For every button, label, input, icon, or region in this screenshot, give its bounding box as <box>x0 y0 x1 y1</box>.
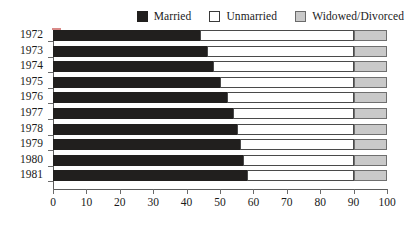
bar-segment-unmarried <box>233 108 353 119</box>
x-axis-tick-label: 0 <box>50 196 56 208</box>
bar-segment-married <box>53 46 207 57</box>
y-axis-tick-label: 1975 <box>20 76 43 87</box>
y-axis-tick-label: 1972 <box>20 29 43 40</box>
bar-row <box>53 30 387 41</box>
x-axis-tick <box>387 189 388 194</box>
bar-segment-married <box>53 170 247 181</box>
bar-segment-unmarried <box>213 61 353 72</box>
bar-segment-unmarried <box>207 46 354 57</box>
x-axis-tick-label: 60 <box>248 196 260 208</box>
widowed-divorced-swatch-icon <box>295 11 306 22</box>
x-axis-tick <box>86 189 87 194</box>
bar-segment-widowed-divorced <box>354 77 387 88</box>
legend-item-unmarried: Unmarried <box>209 10 277 22</box>
bar-row <box>53 124 387 135</box>
legend-item-widowed-divorced: Widowed/Divorced <box>295 10 404 22</box>
legend-label-unmarried: Unmarried <box>226 10 277 22</box>
x-axis-tick-label: 20 <box>114 196 126 208</box>
x-axis-tick-label: 90 <box>348 196 360 208</box>
x-axis-tick-label: 50 <box>214 196 226 208</box>
bar-segment-unmarried <box>237 124 354 135</box>
bar-segment-married <box>53 92 227 103</box>
bar-segment-unmarried <box>220 77 354 88</box>
legend-label-widowed-divorced: Widowed/Divorced <box>312 10 404 22</box>
bar-segment-widowed-divorced <box>354 108 387 119</box>
bar-segment-unmarried <box>200 30 354 41</box>
y-axis-labels: 1972197319741975197619771978197919801981 <box>0 29 49 187</box>
x-axis-tick <box>120 189 121 194</box>
y-axis-tick-label: 1974 <box>20 60 43 71</box>
x-axis-tick-label: 70 <box>281 196 293 208</box>
x-axis-tick-label: 100 <box>378 196 395 208</box>
bar-segment-unmarried <box>227 92 354 103</box>
bar-segment-unmarried <box>247 170 354 181</box>
bar-row <box>53 46 387 57</box>
bar-row <box>53 61 387 72</box>
x-axis-tick <box>53 189 54 194</box>
y-axis-tick-label: 1981 <box>20 169 43 180</box>
bar-segment-widowed-divorced <box>354 139 387 150</box>
bar-row <box>53 108 387 119</box>
bar-segment-married <box>53 61 213 72</box>
x-axis-tick-label: 30 <box>147 196 159 208</box>
stacked-bar-chart: Married Unmarried Widowed/Divorced 19721… <box>0 0 410 229</box>
bar-segment-married <box>53 139 240 150</box>
bar-segment-widowed-divorced <box>354 30 387 41</box>
bar-row <box>53 77 387 88</box>
unmarried-swatch-icon <box>209 11 220 22</box>
married-swatch-icon <box>137 11 148 22</box>
x-axis-tick <box>354 189 355 194</box>
x-axis-tick <box>187 189 188 194</box>
y-axis-tick-label: 1976 <box>20 91 43 102</box>
bar-segment-widowed-divorced <box>354 46 387 57</box>
y-axis-tick-label: 1973 <box>20 45 43 56</box>
bar-row <box>53 170 387 181</box>
y-axis-tick-label: 1979 <box>20 138 43 149</box>
bar-segment-unmarried <box>243 155 353 166</box>
y-axis-tick-label: 1977 <box>20 107 43 118</box>
bar-segment-married <box>53 155 243 166</box>
x-axis-tick-label: 80 <box>314 196 326 208</box>
x-axis-tick <box>153 189 154 194</box>
bar-segment-married <box>53 77 220 88</box>
x-axis-tick <box>220 189 221 194</box>
bar-row <box>53 139 387 150</box>
x-axis-tick <box>287 189 288 194</box>
bar-segment-married <box>53 124 237 135</box>
bar-segment-widowed-divorced <box>354 61 387 72</box>
bar-row <box>53 155 387 166</box>
chart-legend: Married Unmarried Widowed/Divorced <box>0 6 410 26</box>
bar-segment-unmarried <box>240 139 354 150</box>
x-axis-tick <box>253 189 254 194</box>
bar-segment-widowed-divorced <box>354 170 387 181</box>
bar-segment-widowed-divorced <box>354 124 387 135</box>
x-axis-tick <box>320 189 321 194</box>
bar-segment-widowed-divorced <box>354 92 387 103</box>
legend-label-married: Married <box>154 10 192 22</box>
bar-segment-married <box>53 108 233 119</box>
y-axis-tick-label: 1980 <box>20 154 43 165</box>
plot-area <box>53 29 387 187</box>
bar-segment-widowed-divorced <box>354 155 387 166</box>
bar-segment-married <box>53 30 200 41</box>
legend-item-married: Married <box>137 10 192 22</box>
x-axis-tick-label: 10 <box>81 196 93 208</box>
y-axis-tick-label: 1978 <box>20 123 43 134</box>
x-axis-tick-label: 40 <box>181 196 193 208</box>
bar-row <box>53 92 387 103</box>
